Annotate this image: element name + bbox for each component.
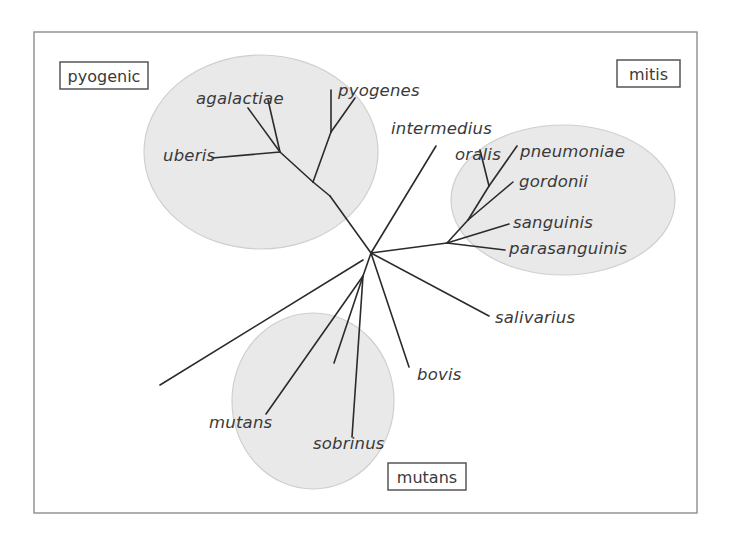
taxon-label-intermedius: intermedius bbox=[391, 119, 492, 138]
group-box-label-pyogenic: pyogenic bbox=[68, 67, 141, 86]
taxon-label-bovis: bovis bbox=[417, 365, 462, 384]
group-box-pyogenic: pyogenic bbox=[60, 62, 148, 89]
phylogenetic-tree-figure: agalactiaepyogenesuberisintermediusorali… bbox=[0, 0, 731, 539]
taxon-label-sanguinis: sanguinis bbox=[513, 213, 593, 232]
taxon-label-parasanguinis: parasanguinis bbox=[508, 239, 628, 258]
group-box-mutans: mutans bbox=[388, 463, 466, 490]
group-box-label-mutans: mutans bbox=[397, 468, 457, 487]
tree-canvas: agalactiaepyogenesuberisintermediusorali… bbox=[0, 0, 731, 539]
taxon-label-pyogenes: pyogenes bbox=[337, 81, 420, 100]
taxon-label-oralis: oralis bbox=[455, 145, 501, 164]
group-box-label-mitis: mitis bbox=[629, 65, 668, 84]
mutans-group bbox=[232, 313, 394, 489]
branch-root-to-mutans-hub bbox=[363, 253, 371, 276]
taxon-label-pneumoniae: pneumoniae bbox=[519, 142, 625, 161]
group-box-mitis: mitis bbox=[617, 60, 680, 87]
taxon-label-sobrinus: sobrinus bbox=[313, 434, 385, 453]
taxon-label-mutans: mutans bbox=[209, 413, 273, 432]
branch-root-to-mitis-hub bbox=[371, 243, 447, 253]
taxon-label-salivarius: salivarius bbox=[495, 308, 575, 327]
taxon-label-uberis: uberis bbox=[163, 146, 215, 165]
branch-intermedius bbox=[371, 146, 436, 253]
taxon-label-gordonii: gordonii bbox=[519, 172, 588, 191]
taxon-label-agalactiae: agalactiae bbox=[196, 89, 284, 108]
